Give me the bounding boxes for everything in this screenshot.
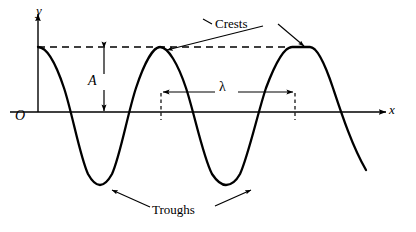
amplitude-label: A <box>88 74 97 88</box>
y-axis-label: y <box>36 4 42 17</box>
wave-diagram: y x O A λ Crests Troughs <box>0 0 416 232</box>
troughs-label: Troughs <box>152 203 195 216</box>
crests-label: Crests <box>215 17 248 30</box>
wavelength-label: λ <box>219 80 226 94</box>
origin-label: O <box>15 109 25 123</box>
wave-diagram-canvas <box>0 0 416 232</box>
x-axis-label: x <box>389 103 395 116</box>
wave-curve <box>38 47 366 185</box>
